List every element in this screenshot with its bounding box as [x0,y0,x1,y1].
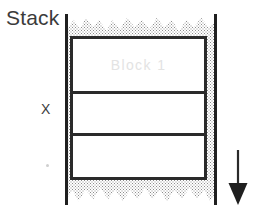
block-1-label: Block 1 [111,57,167,73]
speck-artifact [46,164,49,167]
x-axis-label: X [41,101,50,117]
stack-cell-3 [73,133,204,177]
stack-label: Stack [6,6,60,30]
downward-growth-arrow-icon [226,150,250,206]
left-rail-line [65,14,68,205]
stack-box: Block 1 [70,36,207,180]
stack-cell-1: Block 1 [73,39,204,91]
right-rail-line [214,14,217,205]
stack-cell-2 [73,91,204,133]
stack-diagram-canvas: Stack X Block 1 [0,0,257,214]
